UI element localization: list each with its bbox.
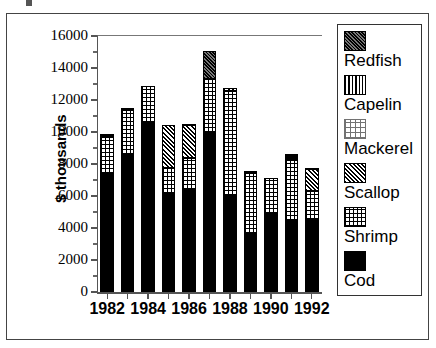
- x-tick: [250, 292, 251, 299]
- bar-segment-shrimp: [203, 79, 217, 133]
- bar-segment-redfish: [100, 134, 114, 136]
- legend-swatch-mackerel: [344, 119, 366, 139]
- legend-swatch-scallop: [344, 163, 366, 183]
- x-tick-label: 1990: [253, 300, 289, 318]
- bar-segment-cod: [141, 123, 155, 292]
- bar-segment-shrimp: [182, 158, 196, 190]
- bar-segment-cod: [305, 220, 319, 292]
- legend-swatch-cod: [344, 251, 366, 271]
- legend-item-cod[interactable]: Cod: [344, 251, 420, 290]
- bar-1984: [141, 36, 155, 292]
- x-tick: [168, 292, 169, 299]
- legend-item-scallop[interactable]: Scallop: [344, 163, 420, 202]
- bar-segment-redfish: [244, 171, 258, 173]
- x-tick: [291, 292, 292, 299]
- x-tick-label: 1988: [212, 300, 248, 318]
- bar-segment-redfish: [203, 51, 217, 79]
- legend-label: Capelin: [344, 96, 420, 114]
- bar-segment-redfish: [305, 168, 319, 170]
- legend-label: Shrimp: [344, 228, 420, 246]
- x-tick-label: 1992: [294, 300, 330, 318]
- legend-label: Mackerel: [344, 140, 420, 158]
- bar-1991: [285, 36, 299, 292]
- bar-segment-scallop: [305, 169, 319, 191]
- x-tick: [107, 292, 108, 299]
- bar-segment-shrimp: [285, 160, 299, 221]
- x-tick: [127, 292, 128, 299]
- y-tick-label: 0: [81, 284, 89, 299]
- y-tick-label: 4000: [58, 220, 88, 235]
- bar-segment-redfish: [121, 108, 135, 110]
- legend-item-mackerel[interactable]: Mackerel: [344, 119, 420, 158]
- bar-segment-shrimp: [244, 173, 258, 235]
- bar-segment-shrimp: [121, 110, 135, 156]
- bar-segment-shrimp: [141, 86, 155, 124]
- legend-swatch-capelin: [344, 75, 366, 95]
- bar-segment-cod: [121, 155, 135, 292]
- bar-segment-capelin: [100, 136, 114, 138]
- legend-swatch-redfish: [344, 31, 366, 51]
- bar-segment-capelin: [182, 124, 196, 126]
- bar-1982: [100, 36, 114, 292]
- bar-1987: [203, 36, 217, 292]
- bar-segment-cod: [100, 174, 114, 292]
- y-tick-label: 6000: [58, 188, 88, 203]
- x-tick: [188, 292, 189, 299]
- bar-1992: [305, 36, 319, 292]
- legend-item-shrimp[interactable]: Shrimp: [344, 207, 420, 246]
- bar-1989: [244, 36, 258, 292]
- legend-swatch-shrimp: [344, 207, 366, 227]
- bar-segment-cod: [223, 196, 237, 292]
- y-tick-label: 8000: [58, 156, 88, 171]
- bar-segment-shrimp: [223, 91, 237, 196]
- bar-segment-cod: [244, 234, 258, 292]
- x-tick: [270, 292, 271, 299]
- bar-segment-scallop: [182, 125, 196, 159]
- legend-label: Redfish: [344, 52, 420, 70]
- bar-segment-shrimp: [264, 178, 278, 215]
- legend: RedfishCapelinMackerelScallopShrimpCod: [337, 24, 422, 296]
- legend-label: Cod: [344, 272, 420, 290]
- bar-segment-cod: [162, 194, 176, 292]
- bar-segment-scallop: [223, 88, 237, 91]
- x-tick: [209, 292, 210, 299]
- bar-1985: [162, 36, 176, 292]
- bar-1986: [182, 36, 196, 292]
- legend-label: Scallop: [344, 184, 420, 202]
- y-tick-label: 16000: [51, 28, 89, 43]
- bar-1990: [264, 36, 278, 292]
- chart-page: $ thousands 0200040006000800010000120001…: [0, 0, 436, 348]
- y-tick-label: 12000: [51, 92, 89, 107]
- bar-segment-shrimp: [162, 168, 176, 194]
- bar-segment-cod: [285, 221, 299, 292]
- legend-item-capelin[interactable]: Capelin: [344, 75, 420, 114]
- y-tick-label: 10000: [51, 124, 89, 139]
- bar-segment-cod: [264, 214, 278, 292]
- bar-segment-scallop: [162, 125, 176, 168]
- bar-segment-shrimp: [100, 137, 114, 175]
- x-tick: [229, 292, 230, 299]
- y-tick-label: 2000: [58, 252, 88, 267]
- bar-segment-shrimp: [305, 191, 319, 220]
- bar-segment-cod: [203, 133, 217, 292]
- bar-segment-cod: [182, 190, 196, 292]
- x-tick: [147, 292, 148, 299]
- x-tick: [311, 292, 312, 299]
- bar-segment-redfish: [285, 154, 299, 156]
- legend-item-redfish[interactable]: Redfish: [344, 31, 420, 70]
- x-tick-label: 1982: [89, 300, 125, 318]
- bar-1988: [223, 36, 237, 292]
- bar-1983: [121, 36, 135, 292]
- x-tick-label: 1984: [130, 300, 166, 318]
- x-tick-label: 1986: [171, 300, 207, 318]
- y-tick-label: 14000: [51, 60, 89, 75]
